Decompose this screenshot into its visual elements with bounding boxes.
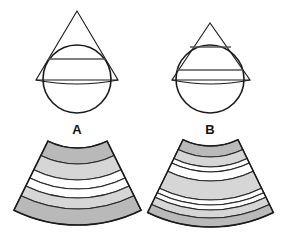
diagram-canvas — [0, 0, 285, 238]
panel-label-b: B — [205, 123, 214, 136]
base-arc — [36, 80, 118, 84]
panel-a-banded-fan — [14, 141, 141, 225]
triangle-outline — [172, 23, 250, 80]
panel-a-cone-circle — [36, 11, 118, 113]
panel-label-a: A — [72, 123, 81, 136]
circle-outline — [176, 45, 244, 113]
panel-b-cone-circle — [172, 23, 250, 113]
circle-outline — [43, 45, 111, 113]
panel-b-banded-fan — [148, 140, 274, 227]
base-arc — [172, 80, 250, 84]
